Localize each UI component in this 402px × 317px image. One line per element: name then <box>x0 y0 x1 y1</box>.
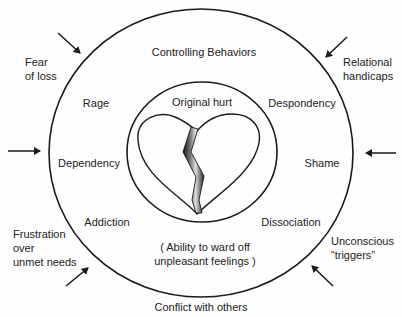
label-line: Unconscious <box>331 234 394 248</box>
label-controlling-behaviors: Controlling Behaviors <box>152 45 257 59</box>
label-line: Frustration <box>13 227 77 241</box>
heart-crack <box>183 127 204 213</box>
diagram-canvas: Fear of loss Relational handicaps Frustr… <box>0 0 402 317</box>
label-dependency: Dependency <box>58 156 120 170</box>
label-relational-handicaps: Relational handicaps <box>343 55 393 83</box>
label-line: of loss <box>25 69 57 83</box>
label-dissociation: Dissociation <box>261 215 320 229</box>
label-line: unmet needs <box>13 255 77 269</box>
label-rage: Rage <box>83 96 109 110</box>
arrow-top-right <box>326 37 347 57</box>
label-line: unpleasant feelings ) <box>154 254 256 268</box>
label-unconscious-triggers: Unconscious “triggers” <box>331 234 394 262</box>
label-line: “triggers” <box>331 248 394 262</box>
label-line: Fear <box>25 55 57 69</box>
label-despondency: Despondency <box>268 96 335 110</box>
label-ability-to-ward-off: ( Ability to ward off unpleasant feeling… <box>154 240 256 268</box>
label-conflict-with-others: Conflict with others <box>155 300 248 314</box>
label-line: ( Ability to ward off <box>154 240 256 254</box>
label-line: handicaps <box>343 69 393 83</box>
arrow-top-left <box>58 33 80 53</box>
label-original-hurt: Original hurt <box>172 95 232 109</box>
label-frustration: Frustration over unmet needs <box>13 227 77 269</box>
arrow-bottom-right <box>312 266 333 286</box>
label-shame: Shame <box>305 156 340 170</box>
label-line: over <box>13 241 77 255</box>
arrow-bottom-left <box>66 268 88 286</box>
label-addiction: Addiction <box>84 215 129 229</box>
label-line: Relational <box>343 55 393 69</box>
label-fear-of-loss: Fear of loss <box>25 55 57 83</box>
